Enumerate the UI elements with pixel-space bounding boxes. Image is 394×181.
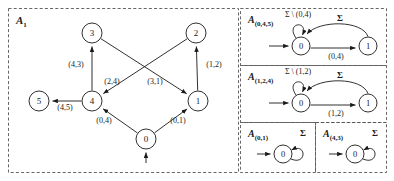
state-label-a045-0: 0 <box>299 41 303 51</box>
graph-edges <box>53 24 376 163</box>
panel-label-a01: A(0,1) <box>247 128 269 142</box>
state-label-a124-1: 1 <box>366 98 370 108</box>
panel-label-subscript: (0,4,5) <box>255 20 274 28</box>
state-label-a01: 0 <box>281 149 285 159</box>
panel-label-a045: A(0,4,5) <box>247 14 274 28</box>
edge-label-n0-n4: (0,4) <box>96 116 112 125</box>
figure-canvas: A1A(0,4,5)A(1,2,4)A(0,1)A(4,3) (4,3)(1,2… <box>0 0 394 181</box>
back-edge-a124 <box>307 81 368 94</box>
back-edge-label-a124: Σ <box>337 70 343 80</box>
state-label-a124-0: 0 <box>299 98 303 108</box>
edge-label-n0-n1: (0,1) <box>170 116 186 125</box>
edge-label-n1-n2: (1,2) <box>206 60 222 69</box>
panel-label-subscript: (4,3) <box>330 134 344 142</box>
forward-edge-label-a124: (1,2) <box>328 109 344 118</box>
back-edge-label-a045: Σ <box>337 13 343 23</box>
state-label-3: 3 <box>90 28 95 38</box>
panel-label-a43: A(4,3) <box>322 128 344 142</box>
state-label-a045-1: 1 <box>366 41 370 51</box>
self-loop-label-a124: Σ \ (1,2) <box>285 67 312 76</box>
panel-label-subscript: (1,2,4) <box>255 77 274 85</box>
self-loop-label-a045: Σ \ (0,4) <box>285 10 312 19</box>
panel-label-main: A1 <box>15 14 27 29</box>
back-edge-a045 <box>307 24 368 37</box>
self-loop-a01 <box>291 148 303 160</box>
panel-label-subscript: (0,1) <box>255 134 269 142</box>
edge-label-n2-n4: (2,4) <box>104 77 120 86</box>
automata-figure: A1A(0,4,5)A(1,2,4)A(0,1)A(4,3) (4,3)(1,2… <box>0 0 394 181</box>
panel-label-subscript: 1 <box>23 21 27 29</box>
state-label-0: 0 <box>144 134 149 144</box>
self-loop-a124 <box>293 82 304 95</box>
edge-label-n4-n5: (4,5) <box>57 103 73 112</box>
self-loop-label-a01: Σ <box>300 128 306 138</box>
panel-border-a124 <box>241 66 387 123</box>
edge-label-n3-n1: (3,1) <box>147 77 163 86</box>
panel-label-a124: A(1,2,4) <box>247 71 274 85</box>
state-label-4: 4 <box>90 96 95 106</box>
edge-n1-to-n2 <box>196 46 197 90</box>
self-loop-label-a43: Σ <box>372 128 378 138</box>
graph-nodes <box>29 23 377 163</box>
state-label-1: 1 <box>196 96 201 106</box>
state-label-2: 2 <box>194 28 199 38</box>
self-loop-a045 <box>293 25 304 38</box>
state-label-5: 5 <box>37 96 42 106</box>
panel-border-a045 <box>241 9 387 66</box>
state-label-a43: 0 <box>353 149 357 159</box>
forward-edge-label-a045: (0,4) <box>328 52 344 61</box>
self-loop-a43 <box>363 148 375 160</box>
edge-label-n4-n3: (4,3) <box>68 60 84 69</box>
